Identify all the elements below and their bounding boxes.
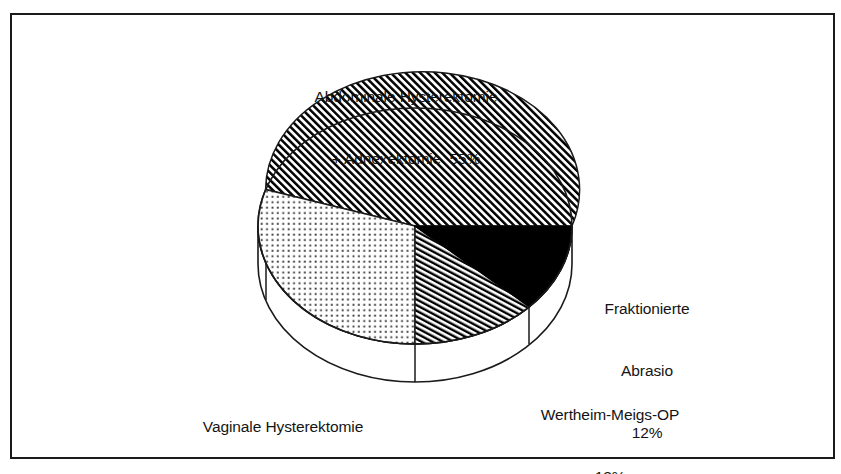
slice-label-abdominale-line2: + Adnexektomie 55%: [256, 149, 556, 170]
slice-label-abdominale-line1: Abdominale Hysterektomie: [256, 87, 556, 108]
slice-label-wertheim-meigs-op: Wertheim-Meigs-OP 13%: [500, 364, 720, 474]
slice-label-wertheim-value: 13%: [500, 467, 720, 474]
figure-root: Abdominale Hysterektomie + Adnexektomie …: [0, 0, 841, 474]
slice-label-wertheim-line1: Wertheim-Meigs-OP: [500, 405, 720, 426]
slice-label-fraktionierte-line1: Fraktionierte: [572, 299, 722, 320]
slice-label-vaginale-hysterektomie: Vaginale Hysterektomie + Adnexektomie 20…: [148, 376, 418, 474]
slice-label-abdominale-hysterektomie: Abdominale Hysterektomie + Adnexektomie …: [256, 46, 556, 211]
slice-label-vaginale-line1: Vaginale Hysterektomie: [148, 417, 418, 438]
